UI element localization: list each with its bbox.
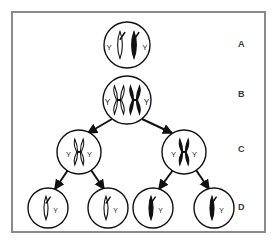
chromatid	[44, 196, 48, 220]
chromatid	[104, 196, 108, 220]
stage-label-c: C	[238, 145, 245, 154]
chromatid	[210, 196, 214, 220]
chromatid	[132, 31, 137, 58]
division-arrow	[142, 119, 172, 133]
cell[interactable]: YY	[162, 130, 206, 174]
cell-row-d: YYYY	[28, 188, 234, 228]
chromosome-label: Y	[158, 207, 163, 214]
cell-row-a: YY	[104, 22, 150, 68]
cell[interactable]: Y	[88, 188, 128, 228]
cell[interactable]: YY	[57, 130, 101, 174]
figure-root: YYYYYYYYYYYY A B C D	[0, 0, 278, 246]
chromatid	[149, 196, 153, 220]
chromosome-label: Y	[66, 150, 71, 159]
centromere	[183, 151, 185, 153]
cell[interactable]: Y	[133, 188, 173, 228]
cell-row-c: YYYY	[57, 130, 206, 174]
centromere	[134, 99, 137, 102]
centromere	[118, 99, 121, 102]
chromosome-label: Y	[113, 207, 118, 214]
stage-label-a: A	[238, 40, 245, 49]
meiosis-diagram: YYYYYYYYYYYY	[0, 0, 278, 246]
chromosome-label: Y	[192, 150, 197, 159]
division-arrow	[196, 170, 209, 189]
cell[interactable]: Y	[194, 188, 234, 228]
chromosome-label: Y	[171, 150, 176, 159]
division-arrow	[88, 119, 112, 133]
chromatid	[118, 31, 123, 58]
stage-label-d: D	[238, 203, 245, 212]
cell[interactable]: YY	[103, 76, 151, 124]
division-arrow	[159, 170, 173, 189]
cell-row-b: YY	[103, 76, 151, 124]
cell[interactable]: Y	[28, 188, 68, 228]
cell[interactable]: YY	[104, 22, 150, 68]
chromosome-label: Y	[53, 207, 58, 214]
chromosome-label: Y	[87, 150, 92, 159]
division-arrow	[55, 170, 68, 189]
division-arrow	[91, 170, 104, 189]
stage-label-b: B	[238, 90, 245, 99]
chromosome-label: Y	[142, 43, 148, 52]
chromosome-label: Y	[219, 207, 224, 214]
chromosome-label: Y	[106, 43, 112, 52]
cells-layer: YYYYYYYYYYYY	[28, 22, 234, 228]
chromosome-label: Y	[105, 98, 111, 107]
centromere	[78, 151, 80, 153]
chromosome-label: Y	[144, 98, 150, 107]
